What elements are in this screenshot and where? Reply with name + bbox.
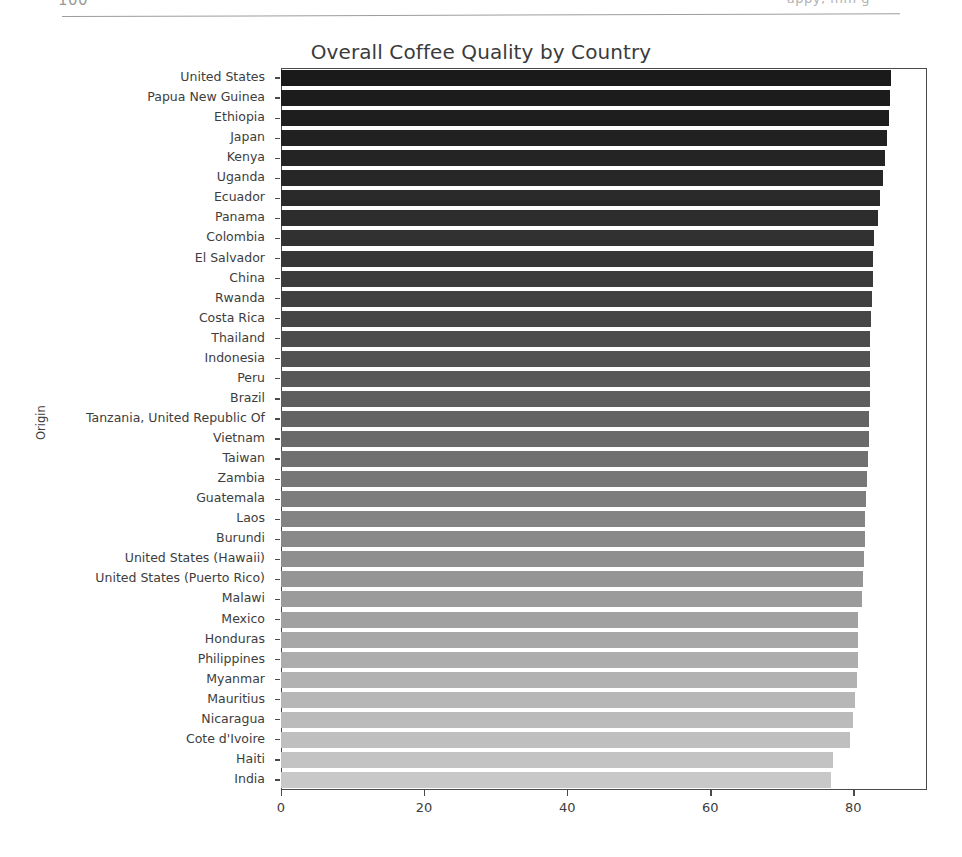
- x-axis-tick-mark: [281, 790, 282, 796]
- x-axis-tick-label: 0: [277, 800, 285, 815]
- x-axis-tick-label: 40: [559, 800, 576, 815]
- x-axis-tick-mark: [567, 790, 568, 796]
- x-axis-tick-label: 80: [845, 800, 862, 815]
- x-axis-tick-mark: [710, 790, 711, 796]
- page-header-right-text: appy, mm g: [787, 0, 870, 6]
- page-header: 100 appy, mm g: [0, 0, 962, 26]
- page-header-divider: [62, 13, 900, 17]
- x-axis-tick-label: 60: [702, 800, 719, 815]
- page-root: 100 appy, mm g Overall Coffee Quality by…: [0, 0, 962, 857]
- x-axis-tick-mark: [853, 790, 854, 796]
- x-axis-tick-label: 20: [416, 800, 433, 815]
- page-header-left-text: 100: [58, 0, 88, 9]
- x-axis-ticks: 020406080: [0, 26, 962, 857]
- x-axis-tick-mark: [424, 790, 425, 796]
- chart-figure: Overall Coffee Quality by Country Origin…: [0, 26, 962, 857]
